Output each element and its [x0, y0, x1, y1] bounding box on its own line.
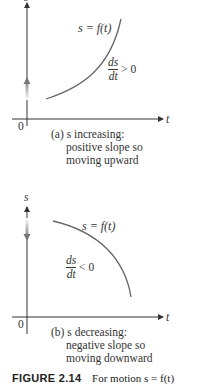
deriv-relation: < 0 [79, 261, 94, 273]
figure-caption: FIGURE 2.14 For motion s = f(t) [12, 372, 174, 384]
t-axis-label: t [166, 311, 169, 324]
caption-b-line3: moving downward [51, 352, 153, 365]
upward-motion-arrow [26, 82, 29, 100]
caption-a-line3: moving upward [51, 154, 143, 167]
t-axis-label: t [166, 113, 169, 126]
s-axis-label: s [24, 191, 28, 204]
origin-label: 0 [18, 318, 24, 331]
deriv-numerator: ds [66, 254, 76, 268]
arrow-up-icon [24, 77, 31, 84]
deriv-relation: > 0 [121, 63, 136, 75]
curve-label: s = f(t) [78, 22, 111, 35]
derivative-annotation: ds dt > 0 [108, 56, 136, 83]
deriv-numerator: ds [108, 56, 118, 70]
caption-a-line2: positive slope so [51, 141, 143, 154]
deriv-denominator: dt [66, 268, 76, 281]
caption-b-line1: (b) s decreasing: [51, 326, 153, 339]
figure-label: FIGURE 2.14 [12, 372, 81, 384]
s-axis-label: s [24, 0, 28, 4]
deriv-denominator: dt [108, 70, 118, 83]
origin-label: 0 [18, 120, 24, 133]
caption-b-line2: negative slope so [51, 339, 153, 352]
figure-text: For motion s = f(t) [92, 372, 174, 384]
caption-a: (a) s increasing: positive slope so movi… [51, 128, 143, 167]
arrow-down-icon [24, 234, 31, 241]
curve-label: s = f(t) [82, 220, 115, 233]
caption-a-line1: (a) s increasing: [51, 128, 143, 141]
downward-motion-arrow [26, 218, 29, 236]
derivative-annotation: ds dt < 0 [66, 254, 94, 281]
caption-b: (b) s decreasing: negative slope so movi… [51, 326, 153, 365]
